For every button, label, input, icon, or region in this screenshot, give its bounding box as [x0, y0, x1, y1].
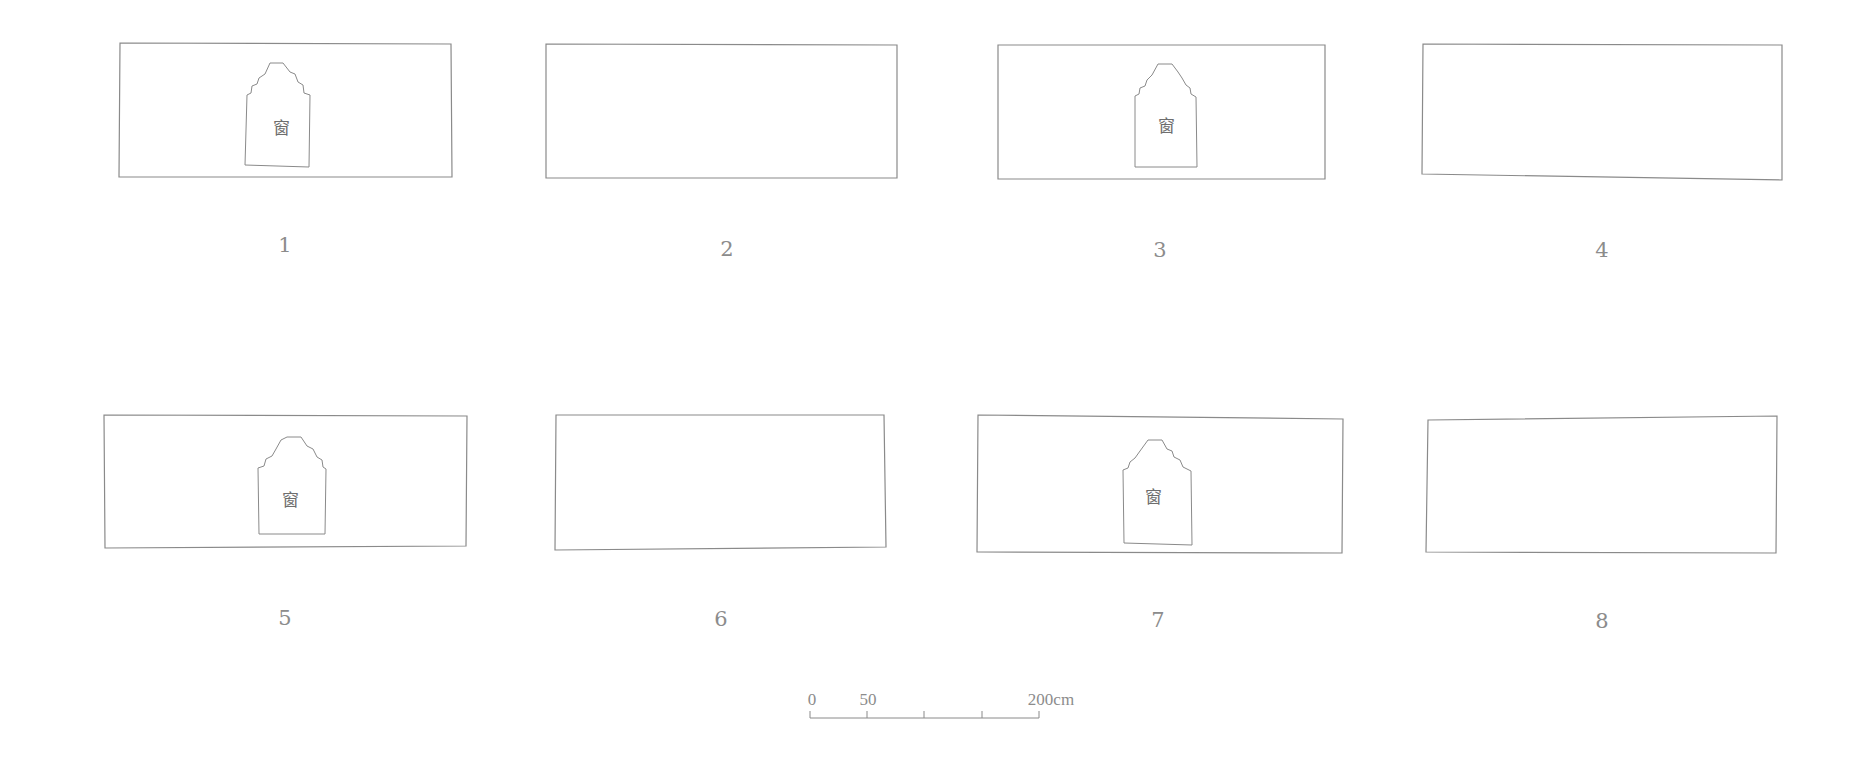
window-label-3: 窗	[1158, 112, 1175, 137]
panel-number-7: 7	[1151, 608, 1164, 632]
panel-number-6: 6	[714, 607, 727, 631]
window-label-7: 窗	[1145, 483, 1162, 508]
wall-outlines	[104, 43, 1782, 553]
panel-number-2: 2	[720, 237, 733, 261]
wall-elevation-8	[1426, 416, 1777, 553]
panel-number-5: 5	[278, 606, 291, 630]
window-label-1: 窗	[273, 114, 290, 139]
wall-elevation-4	[1422, 44, 1782, 180]
wall-elevation-5	[104, 415, 467, 548]
scale-label-200cm: 200cm	[1028, 690, 1074, 710]
scale-label-0: 0	[808, 690, 817, 710]
wall-elevation-2	[546, 44, 897, 178]
panel-number-1: 1	[278, 233, 291, 257]
window-outlines	[245, 63, 1197, 545]
window-label-5: 窗	[282, 486, 299, 511]
scale-bar	[810, 711, 1039, 718]
wall-elevation-1	[119, 43, 452, 177]
wall-elevation-6	[555, 415, 886, 550]
panel-number-3: 3	[1153, 238, 1166, 262]
scale-label-50: 50	[860, 690, 877, 710]
panel-number-8: 8	[1595, 609, 1608, 633]
panel-number-4: 4	[1595, 238, 1608, 262]
